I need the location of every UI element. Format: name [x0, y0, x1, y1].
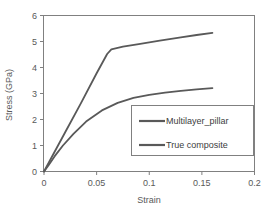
y-axis-title: Stress (GPa) [4, 69, 14, 121]
y-axis-tick-labels: 0123456 [32, 11, 37, 177]
x-tick-label: 0 [41, 178, 46, 188]
y-tick-label: 2 [32, 115, 37, 125]
y-tick-label: 6 [32, 11, 37, 21]
y-tick-label: 4 [32, 63, 37, 73]
x-tick-label: 0.2 [248, 178, 261, 188]
y-tick-label: 0 [32, 167, 37, 177]
y-tick-label: 5 [32, 37, 37, 47]
x-tick-label: 0.1 [143, 178, 156, 188]
y-tick-label: 1 [32, 141, 37, 151]
y-axis-tick-marks [40, 16, 44, 172]
legend-label[interactable]: Multilayer_pillar [166, 116, 229, 126]
chart-canvas: 0123456 00.050.10.150.2 Strain Stress (G… [0, 0, 272, 209]
x-axis-title: Strain [137, 195, 161, 205]
stress-strain-chart: 0123456 00.050.10.150.2 Strain Stress (G… [0, 0, 272, 209]
x-axis-tick-labels: 00.050.10.150.2 [41, 178, 260, 188]
x-axis-tick-marks [44, 172, 255, 176]
y-tick-label: 3 [32, 89, 37, 99]
x-tick-label: 0.05 [88, 178, 106, 188]
chart-legend[interactable]: Multilayer_pillarTrue composite [132, 106, 254, 156]
x-tick-label: 0.15 [193, 178, 211, 188]
legend-label[interactable]: True composite [166, 140, 228, 150]
